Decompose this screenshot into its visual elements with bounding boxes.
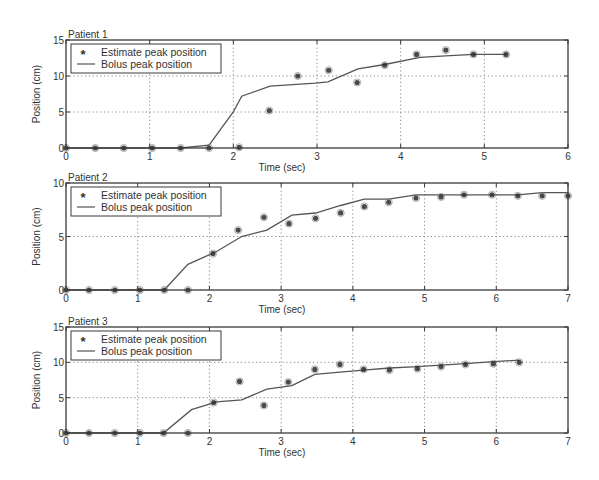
estimate-star-marker — [326, 68, 331, 73]
x-tick-label: 1 — [147, 151, 153, 162]
subplot-title: Patient 2 — [68, 172, 108, 183]
bolus-line-path — [66, 360, 519, 433]
estimate-star-marker — [415, 366, 420, 371]
estimate-star-marker — [489, 192, 494, 197]
y-tick-label: 10 — [53, 178, 65, 189]
x-tick-label: 6 — [565, 151, 571, 162]
estimate-star-marker — [286, 380, 291, 385]
figure: 0123456051015 * Estimate peak position B… — [0, 0, 599, 480]
estimate-star-marker — [211, 400, 216, 405]
estimate-star-marker — [261, 403, 266, 408]
x-tick-label: 5 — [482, 151, 488, 162]
estimate-star-marker — [471, 52, 476, 57]
x-tick-label: 3 — [314, 151, 320, 162]
x-tick-label: 3 — [278, 293, 284, 304]
figure-canvas: 0123456051015 * Estimate peak position B… — [0, 0, 599, 480]
subplot-title: Patient 3 — [68, 316, 108, 327]
bolus-peak-line — [66, 360, 519, 433]
estimate-star-marker — [236, 227, 241, 232]
x-tick-label: 5 — [422, 436, 428, 447]
estimate-star-marker — [387, 368, 392, 373]
x-tick-label: 6 — [494, 293, 500, 304]
legend-entry-bolus: Bolus peak position — [101, 201, 192, 213]
y-tick-label: 5 — [58, 393, 64, 404]
legend: * Estimate peak position Bolus peak posi… — [71, 331, 221, 360]
x-tick-label: 7 — [565, 293, 571, 304]
legend-entry-bolus: Bolus peak position — [101, 58, 192, 70]
x-tick-label: 4 — [350, 436, 356, 447]
x-tick-label: 0 — [63, 293, 69, 304]
estimate-star-marker — [443, 47, 448, 52]
subplot-patient-2: 012345670510 * Estimate peak position Bo… — [31, 172, 572, 315]
x-tick-label: 4 — [398, 151, 404, 162]
x-tick-label: 4 — [350, 293, 356, 304]
subplot-title: Patient 1 — [68, 29, 108, 40]
x-axis-label: Time (sec) — [259, 447, 306, 458]
estimate-star-marker — [338, 210, 343, 215]
estimate-star-marker — [286, 221, 291, 226]
estimate-star-marker — [210, 251, 215, 256]
legend-entry-estimate: Estimate peak position — [101, 333, 207, 345]
legend: * Estimate peak position Bolus peak posi… — [71, 187, 221, 216]
x-tick-label: 2 — [231, 151, 237, 162]
estimate-star-marker — [267, 108, 272, 113]
estimate-star-marker — [414, 52, 419, 57]
estimate-star-marker — [261, 215, 266, 220]
x-tick-label: 5 — [422, 293, 428, 304]
y-tick-label: 15 — [53, 322, 65, 333]
x-tick-label: 2 — [207, 436, 213, 447]
y-axis-label: Position (cm) — [31, 207, 42, 265]
estimate-star-marker — [295, 73, 300, 78]
legend: * Estimate peak position Bolus peak posi… — [71, 44, 221, 73]
x-tick-label: 1 — [135, 436, 141, 447]
x-tick-label: 7 — [565, 436, 571, 447]
x-tick-label: 6 — [494, 436, 500, 447]
x-tick-label: 2 — [207, 293, 213, 304]
estimate-star-marker — [312, 367, 317, 372]
estimate-star-marker — [237, 379, 242, 384]
legend-entry-estimate: Estimate peak position — [101, 46, 207, 58]
estimate-star-marker — [517, 360, 522, 365]
estimate-star-marker — [382, 63, 387, 68]
estimate-star-marker — [313, 216, 318, 221]
y-tick-label: 15 — [53, 35, 65, 46]
estimate-star-marker — [540, 193, 545, 198]
x-tick-label: 3 — [278, 436, 284, 447]
legend-entry-bolus: Bolus peak position — [101, 345, 192, 357]
estimate-star-marker — [463, 362, 468, 367]
y-axis-label: Position (cm) — [31, 351, 42, 409]
estimate-star-marker — [413, 195, 418, 200]
estimate-star-marker — [438, 194, 443, 199]
legend-entry-estimate: Estimate peak position — [101, 189, 207, 201]
y-tick-label: 0 — [58, 143, 64, 154]
x-tick-label: 0 — [63, 151, 69, 162]
estimate-star-marker — [461, 192, 466, 197]
subplot-patient-1: 0123456051015 * Estimate peak position B… — [31, 29, 571, 173]
y-tick-label: 0 — [58, 285, 64, 296]
y-tick-label: 5 — [58, 232, 64, 243]
estimate-star-marker — [237, 145, 242, 150]
estimate-star-marker — [337, 362, 342, 367]
y-tick-label: 10 — [53, 357, 65, 368]
estimate-star-marker — [386, 200, 391, 205]
estimate-star-marker — [355, 80, 360, 85]
y-tick-label: 10 — [53, 71, 65, 82]
x-tick-label: 0 — [63, 436, 69, 447]
estimate-star-marker — [515, 193, 520, 198]
estimate-star-marker — [438, 364, 443, 369]
estimate-star-marker — [361, 367, 366, 372]
x-axis-label: Time (sec) — [259, 304, 306, 315]
estimate-star-marker — [362, 204, 367, 209]
y-tick-label: 0 — [58, 428, 64, 439]
y-axis-label: Position (cm) — [31, 65, 42, 123]
x-tick-label: 1 — [135, 293, 141, 304]
estimate-star-marker — [503, 52, 508, 57]
subplot-patient-3: 01234567051015 * Estimate peak position … — [31, 316, 571, 458]
estimate-star-marker — [491, 361, 496, 366]
x-axis-label: Time (sec) — [259, 162, 306, 173]
y-tick-label: 5 — [58, 107, 64, 118]
